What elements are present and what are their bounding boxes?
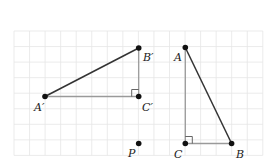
- label-a-prime: A′: [33, 101, 45, 114]
- point-a-prime: [42, 94, 48, 100]
- point-b-prime: [136, 45, 142, 51]
- point-b: [229, 141, 235, 147]
- point-a: [183, 45, 189, 51]
- label-b: B: [235, 148, 244, 161]
- point-p: [136, 141, 142, 147]
- label-c-prime: C′: [142, 101, 153, 114]
- label-a: A: [173, 51, 182, 64]
- geometry-diagram: A′ B′ C′ P A B C: [0, 0, 268, 165]
- label-p: P: [127, 147, 136, 160]
- label-b-prime: B′: [142, 51, 154, 64]
- label-c: C: [174, 148, 183, 161]
- point-c-prime: [136, 94, 142, 100]
- point-c: [183, 141, 189, 147]
